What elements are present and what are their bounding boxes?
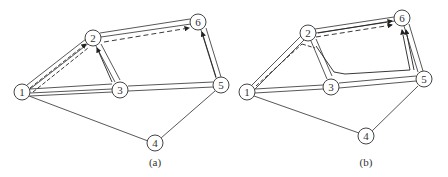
link-1-2 xyxy=(27,39,89,89)
caption-a: (a) xyxy=(149,156,162,169)
link-4-5 xyxy=(161,91,215,138)
node-6: 6 xyxy=(190,14,206,30)
node-6: 6 xyxy=(394,10,410,26)
link-2-6 xyxy=(100,19,191,37)
network-diagram: 1 2 3 4 5 6 1 2 3 4 5 6 (a) (b) xyxy=(0,0,448,177)
node-4: 4 xyxy=(147,135,163,151)
link-5-6 xyxy=(201,28,221,78)
link-4-5 xyxy=(372,86,418,131)
panel-b xyxy=(252,17,423,133)
panel-a xyxy=(27,19,221,141)
link-1-4 xyxy=(254,96,359,133)
svg-text:5: 5 xyxy=(421,73,427,85)
link-1-2 xyxy=(252,36,304,89)
svg-text:1: 1 xyxy=(19,86,25,98)
node-1: 1 xyxy=(239,84,255,100)
link-3-5 xyxy=(128,82,213,91)
flow-path-1-2-dashed xyxy=(256,44,302,86)
svg-text:6: 6 xyxy=(399,12,405,24)
svg-text:4: 4 xyxy=(152,137,158,149)
link-3-5 xyxy=(339,76,416,88)
flow-path-3-2 xyxy=(97,48,112,82)
node-5: 5 xyxy=(213,77,229,93)
svg-text:3: 3 xyxy=(117,84,123,96)
svg-text:2: 2 xyxy=(90,32,96,44)
svg-text:1: 1 xyxy=(244,86,250,98)
svg-text:4: 4 xyxy=(363,130,369,142)
link-5-6 xyxy=(404,24,423,72)
link-2-3 xyxy=(311,39,332,79)
node-3: 3 xyxy=(323,79,339,95)
svg-text:5: 5 xyxy=(218,79,224,91)
node-3: 3 xyxy=(112,82,128,98)
caption-b: (b) xyxy=(360,156,373,169)
node-2: 2 xyxy=(85,30,101,46)
link-1-3 xyxy=(30,84,112,96)
flow-path-2-3-5-6 xyxy=(316,30,410,74)
link-1-3 xyxy=(255,85,323,93)
link-2-6 xyxy=(315,17,395,33)
node-5: 5 xyxy=(416,71,432,87)
svg-text:3: 3 xyxy=(328,81,334,93)
flow-path-1-2-dashed xyxy=(30,44,86,88)
node-2: 2 xyxy=(300,25,316,41)
svg-text:2: 2 xyxy=(305,27,311,39)
link-2-3 xyxy=(96,44,120,82)
flow-path-1-2-dashed-2 xyxy=(33,48,88,92)
node-1: 1 xyxy=(14,84,30,100)
svg-text:6: 6 xyxy=(195,16,201,28)
link-1-4 xyxy=(29,96,148,141)
node-4: 4 xyxy=(358,128,374,144)
